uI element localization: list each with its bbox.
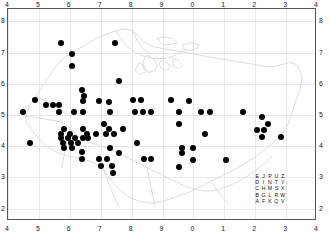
data-point bbox=[69, 145, 75, 151]
axis-tick-label-left: 2 bbox=[1, 204, 5, 211]
axis-tick-label-top: 6 bbox=[67, 1, 71, 8]
axis-tick-label-bottom: 9 bbox=[160, 225, 164, 232]
data-point bbox=[71, 109, 77, 115]
axis-tick-label-right: 6 bbox=[319, 79, 323, 86]
data-point bbox=[148, 109, 154, 115]
axis-tick-label-top: 7 bbox=[98, 1, 102, 8]
alphabet-square-legend: EJPUZDINTYCHMSXBGLRWAFKQV bbox=[254, 173, 286, 204]
data-point bbox=[134, 140, 140, 146]
data-point bbox=[58, 40, 64, 46]
data-point bbox=[179, 150, 185, 156]
axis-tick-label-bottom: 8 bbox=[129, 225, 133, 232]
axis-tick-label-bottom: 1 bbox=[221, 225, 225, 232]
axis-tick-label-bottom: 2 bbox=[252, 225, 256, 232]
data-point bbox=[148, 156, 154, 162]
axis-tick-label-top: 3 bbox=[283, 1, 287, 8]
data-point bbox=[176, 109, 182, 115]
data-point bbox=[223, 157, 229, 163]
data-point bbox=[79, 156, 85, 162]
data-point bbox=[96, 98, 102, 104]
axis-tick-label-left: 5 bbox=[1, 111, 5, 118]
axis-tick-label-left: 7 bbox=[1, 48, 5, 55]
data-point bbox=[79, 149, 85, 155]
axis-tick-label-right: 2 bbox=[319, 204, 323, 211]
data-point bbox=[132, 109, 138, 115]
data-point bbox=[56, 102, 62, 108]
axis-tick-label-right: 4 bbox=[319, 142, 323, 149]
axis-tick-label-bottom: 4 bbox=[5, 225, 9, 232]
data-point bbox=[93, 131, 99, 137]
data-point bbox=[198, 109, 204, 115]
data-point bbox=[186, 98, 192, 104]
data-point bbox=[104, 156, 110, 162]
data-point bbox=[116, 78, 122, 84]
data-point bbox=[69, 63, 75, 69]
axis-tick-label-bottom: 6 bbox=[67, 225, 71, 232]
data-point bbox=[112, 40, 118, 46]
axis-tick-label-right: 7 bbox=[319, 48, 323, 55]
axis-tick-label-bottom: 4 bbox=[314, 225, 318, 232]
axis-tick-label-left: 4 bbox=[1, 142, 5, 149]
distribution-map-figure: 45678901234 45678901234 8765432 8765432 … bbox=[0, 0, 330, 239]
axis-tick-label-right: 3 bbox=[319, 173, 323, 180]
axis-tick-label-left: 3 bbox=[1, 173, 5, 180]
axis-tick-label-top: 8 bbox=[129, 1, 133, 8]
data-point bbox=[240, 109, 246, 115]
axis-tick-label-top: 5 bbox=[36, 1, 40, 8]
axis-tick-label-top: 1 bbox=[221, 1, 225, 8]
data-point bbox=[176, 164, 182, 170]
data-point bbox=[96, 156, 102, 162]
data-point bbox=[109, 163, 115, 169]
data-point bbox=[98, 163, 104, 169]
data-point bbox=[202, 131, 208, 137]
axis-tick-label-bottom: 5 bbox=[36, 225, 40, 232]
axis-tick-label-bottom: 3 bbox=[283, 225, 287, 232]
data-point bbox=[106, 99, 112, 105]
axis-tick-label-top: 2 bbox=[252, 1, 256, 8]
data-point bbox=[190, 157, 196, 163]
axis-tick-label-right: 8 bbox=[319, 17, 323, 24]
axis-tick-label-bottom: 7 bbox=[98, 225, 102, 232]
axis-tick-label-right: 5 bbox=[319, 111, 323, 118]
data-point bbox=[261, 127, 267, 133]
axis-tick-label-top: 4 bbox=[5, 1, 9, 8]
data-point bbox=[43, 102, 49, 108]
axis-tick-label-top: 9 bbox=[160, 1, 164, 8]
data-point bbox=[107, 145, 113, 151]
data-point bbox=[176, 121, 182, 127]
data-point bbox=[32, 97, 38, 103]
data-point bbox=[107, 109, 113, 115]
data-point bbox=[79, 87, 85, 93]
data-point bbox=[259, 114, 265, 120]
data-point bbox=[168, 97, 174, 103]
data-point bbox=[27, 140, 33, 146]
axis-tick-label-top: 4 bbox=[314, 1, 318, 8]
data-point bbox=[259, 134, 265, 140]
data-point bbox=[111, 131, 117, 137]
data-point bbox=[80, 98, 86, 104]
data-point bbox=[140, 109, 146, 115]
data-point bbox=[56, 109, 62, 115]
data-point bbox=[110, 170, 116, 176]
data-point bbox=[101, 121, 107, 127]
legend-letter: V bbox=[280, 198, 286, 204]
data-point bbox=[116, 150, 122, 156]
axis-tick-label-bottom: 0 bbox=[190, 225, 194, 232]
data-point bbox=[20, 109, 26, 115]
data-point bbox=[190, 145, 196, 151]
data-point bbox=[141, 156, 147, 162]
data-point bbox=[120, 126, 126, 132]
data-point bbox=[138, 97, 144, 103]
data-point bbox=[254, 127, 260, 133]
data-point bbox=[75, 140, 81, 146]
data-point bbox=[278, 134, 284, 140]
axis-tick-label-left: 6 bbox=[1, 79, 5, 86]
data-point bbox=[207, 109, 213, 115]
data-point bbox=[80, 109, 86, 115]
axis-tick-label-left: 8 bbox=[1, 17, 5, 24]
data-point bbox=[103, 131, 109, 137]
data-point bbox=[61, 145, 67, 151]
data-point bbox=[50, 102, 56, 108]
data-point bbox=[69, 51, 75, 57]
data-point bbox=[85, 135, 91, 141]
